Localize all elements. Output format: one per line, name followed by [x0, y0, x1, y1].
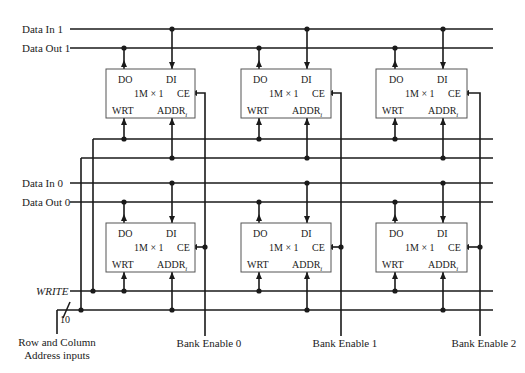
svg-text:DO: DO	[118, 228, 132, 239]
svg-text:CE: CE	[177, 88, 190, 99]
svg-text:CE: CE	[448, 88, 461, 99]
junction	[202, 244, 207, 249]
label-address-inputs-2: Address inputs	[24, 349, 90, 361]
svg-text:1M × 1: 1M × 1	[269, 242, 299, 253]
svg-text:WRT: WRT	[247, 105, 269, 116]
svg-text:DI: DI	[166, 228, 177, 239]
svg-text:DO: DO	[253, 228, 267, 239]
chip-row0-col2: DO DI 1M × 1 CE WRT ADDRi	[376, 180, 467, 312]
label-data-in-1: Data In 1	[22, 23, 63, 35]
svg-text:WRT: WRT	[112, 259, 134, 270]
svg-text:DI: DI	[301, 228, 312, 239]
label-bank-enable-1: Bank Enable 1	[313, 337, 378, 349]
junction	[78, 307, 83, 312]
svg-text:DI: DI	[301, 74, 312, 85]
label-data-out-1: Data Out 1	[22, 42, 70, 54]
svg-text:1M × 1: 1M × 1	[405, 242, 435, 253]
svg-text:WRT: WRT	[382, 105, 404, 116]
svg-text:DO: DO	[253, 74, 267, 85]
svg-text:CE: CE	[312, 242, 325, 253]
label-bank-enable-2: Bank Enable 2	[452, 337, 517, 349]
svg-text:CE: CE	[312, 88, 325, 99]
svg-text:DO: DO	[389, 228, 403, 239]
svg-text:1M × 1: 1M × 1	[405, 88, 435, 99]
bank-enable-1-line	[331, 93, 341, 336]
svg-text:WRT: WRT	[112, 105, 134, 116]
label-bus-width: 10	[60, 314, 70, 325]
svg-text:CE: CE	[448, 242, 461, 253]
label-data-in-0: Data In 0	[22, 177, 63, 189]
chip-row1-col0: DO DI 1M × 1 CE WRT ADDRi	[106, 26, 195, 160]
svg-text:DI: DI	[437, 228, 448, 239]
svg-text:DI: DI	[166, 74, 177, 85]
junction	[90, 288, 95, 293]
svg-text:CE: CE	[177, 242, 190, 253]
label-bank-enable-0: Bank Enable 0	[177, 337, 242, 349]
label-write: WRITE	[36, 285, 69, 297]
bank-enable-0-line	[195, 93, 205, 336]
junction	[477, 244, 482, 249]
bank-enable-2-line	[467, 93, 480, 336]
memory-bank-diagram: Data In 1 Data Out 1 Data In 0 Data Out …	[0, 0, 525, 373]
junction	[338, 244, 343, 249]
chip-row0-col0: DO DI 1M × 1 CE WRT ADDRi	[106, 180, 195, 312]
chip-row0-col1: DO DI 1M × 1 CE WRT ADDRi	[241, 180, 331, 312]
label-address-inputs-1: Row and Column	[18, 336, 96, 348]
svg-text:1M × 1: 1M × 1	[269, 88, 299, 99]
chip-row1-col1: DO DI 1M × 1 CE WRT ADDRi	[241, 26, 331, 160]
chip-row1-col2: DO DI 1M × 1 CE WRT ADDRi	[376, 26, 467, 160]
label-data-out-0: Data Out 0	[22, 196, 71, 208]
svg-text:DI: DI	[437, 74, 448, 85]
svg-text:1M × 1: 1M × 1	[134, 242, 164, 253]
svg-text:DO: DO	[389, 74, 403, 85]
svg-text:WRT: WRT	[382, 259, 404, 270]
svg-text:WRT: WRT	[247, 259, 269, 270]
svg-text:DO: DO	[118, 74, 132, 85]
svg-text:1M × 1: 1M × 1	[134, 88, 164, 99]
